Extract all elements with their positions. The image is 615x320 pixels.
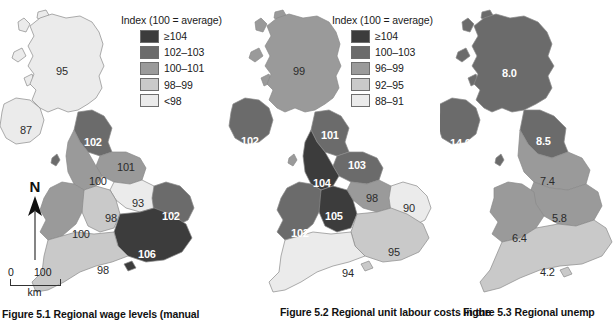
region-isle-of-wight (361, 261, 373, 271)
scale-bar: 0 100 km (8, 266, 70, 298)
legend-title: Index (100 = average) (332, 14, 433, 26)
legend-swatch (140, 46, 159, 59)
legend-swatch (140, 30, 159, 43)
region-skye (249, 48, 263, 62)
region-scotland (28, 14, 104, 112)
figure-caption: Figure 5.3 Regional unemp (463, 306, 595, 318)
legend-label: 102–103 (164, 46, 204, 58)
legend-label: 98–99 (164, 79, 193, 91)
legend-swatch (140, 78, 159, 91)
region-isle-of-wight (124, 261, 136, 271)
region-label: 99 (293, 66, 305, 77)
figure-caption: Figure 5.1 Regional wage levels (manual (2, 308, 199, 320)
region-label: 100 (72, 229, 90, 240)
region-label: 5.8 (552, 213, 567, 224)
region-hebrides (18, 18, 30, 32)
region-isle-of-man (288, 154, 297, 166)
region-label: 8.0 (502, 68, 517, 79)
scale-unit: km (8, 286, 61, 298)
region-label: 95 (56, 66, 68, 77)
region-label: 98 (366, 193, 378, 204)
region-south-west (269, 232, 365, 292)
legend-swatch (351, 62, 370, 75)
region-isle-of-man (495, 154, 504, 166)
region-label: 100 (89, 176, 107, 187)
legend-swatch (140, 94, 159, 107)
legend-label: 96–99 (375, 62, 404, 74)
map-uk-unemployment: 8.0 14.0 8.5 7.4 5.8 6.4 4.2 (440, 0, 615, 302)
legend-row: 100–103 (351, 45, 433, 59)
region-label: 7.4 (540, 176, 555, 187)
figure-5-2: 99 102 101 103 104 98 105 90 102 95 94 I… (207, 0, 439, 320)
figure-5-1: 95 87 102 101 100 93 98 102 100 106 98 I… (0, 0, 208, 320)
legend-row: 92–95 (351, 78, 433, 92)
region-label: 106 (138, 249, 156, 260)
legend-label: ≥104 (164, 30, 187, 42)
legend-swatch (351, 94, 370, 107)
region-label: 101 (321, 130, 339, 141)
region-label: 98 (105, 213, 117, 224)
region-label: 98 (97, 265, 109, 276)
scale-numbers: 0 100 (8, 266, 70, 279)
legend-swatch (351, 46, 370, 59)
legend-row: 88–91 (351, 94, 433, 108)
region-skye (456, 48, 470, 62)
legend-unit-labour-costs: Index (100 = average) ≥104 100–103 96–99 (332, 14, 433, 110)
region-label: 94 (342, 268, 354, 279)
scale-line (10, 279, 61, 286)
figure-5-3: 8.0 14.0 8.5 7.4 5.8 6.4 4.2 Figure 5.3 … (440, 0, 615, 320)
legend-swatch (351, 30, 370, 43)
legend-swatch (351, 78, 370, 91)
region-label: 14.0 (450, 138, 471, 149)
choropleth-svg-3 (440, 0, 615, 302)
region-label: 4.2 (540, 267, 555, 278)
region-label: 102 (291, 228, 309, 239)
region-hebrides (255, 18, 267, 32)
scale-start: 0 (8, 266, 14, 278)
region-isle-of-man (51, 154, 60, 166)
region-label: 102 (241, 136, 259, 147)
region-label: 103 (348, 160, 366, 171)
arrow-icon (18, 194, 52, 262)
compass-arrow-icon (18, 194, 52, 262)
region-label: 87 (20, 125, 32, 136)
legend-row: 96–99 (351, 61, 433, 75)
legend-row: ≥104 (351, 29, 433, 43)
legend-label: ≥104 (375, 30, 398, 42)
region-hebrides (462, 18, 474, 32)
map-uk-wage-levels: 95 87 102 101 100 93 98 102 100 106 98 I… (0, 0, 208, 302)
region-scotland (472, 14, 554, 112)
region-isle-of-wight (560, 267, 572, 277)
region-label: 6.4 (512, 233, 527, 244)
map-uk-unit-labour-costs: 99 102 101 103 104 98 105 90 102 95 94 I… (207, 0, 439, 302)
region-skye (12, 48, 26, 62)
region-label: 90 (403, 203, 415, 214)
region-label: 93 (132, 198, 144, 209)
figure-page: 95 87 102 101 100 93 98 102 100 106 98 I… (0, 0, 615, 320)
region-label: 102 (162, 211, 180, 222)
region-label: 95 (388, 247, 400, 258)
legend-label: 100–101 (164, 62, 204, 74)
north-arrow: N (18, 180, 52, 262)
legend-swatch (140, 62, 159, 75)
region-label: 104 (313, 178, 331, 189)
legend-label: 92–95 (375, 79, 404, 91)
legend-label: 100–103 (375, 46, 415, 58)
legend-label: 88–91 (375, 95, 404, 107)
scale-end: 100 (34, 266, 52, 278)
region-label: 101 (117, 162, 135, 173)
region-label: 105 (325, 211, 343, 222)
region-label: 8.5 (536, 136, 551, 147)
north-label: N (18, 180, 52, 194)
region-scotland (265, 14, 341, 112)
region-label: 102 (84, 137, 102, 148)
legend-label: <98 (164, 95, 182, 107)
